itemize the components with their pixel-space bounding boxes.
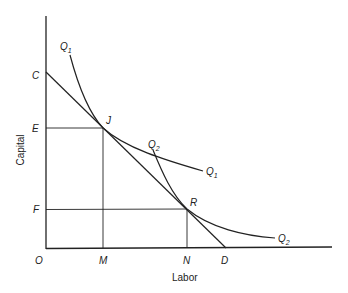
label-F: F (33, 204, 40, 215)
label-O: O (35, 255, 43, 266)
label-q2-top: Q2 (148, 139, 160, 152)
label-C: C (32, 70, 40, 81)
isocost-line-CD (46, 72, 226, 248)
label-E: E (32, 123, 39, 134)
label-q1-top: Q1 (60, 41, 72, 54)
label-M: M (99, 255, 108, 266)
label-N: N (183, 255, 191, 266)
y-axis-title: Capital (15, 134, 26, 165)
label-q2-right: Q2 (278, 233, 290, 246)
label-J: J (105, 115, 112, 126)
label-D: D (221, 255, 228, 266)
isoquant-diagram: C E F O M N D J R Q1 Q1 Q2 Q2 Labor Capi… (0, 0, 348, 293)
label-R: R (190, 197, 197, 208)
guide-F-R (46, 209, 187, 210)
isoquant-q1 (70, 55, 203, 171)
x-axis-title: Labor (172, 272, 198, 283)
x-axis (46, 247, 332, 249)
label-q1-right: Q1 (206, 166, 218, 179)
